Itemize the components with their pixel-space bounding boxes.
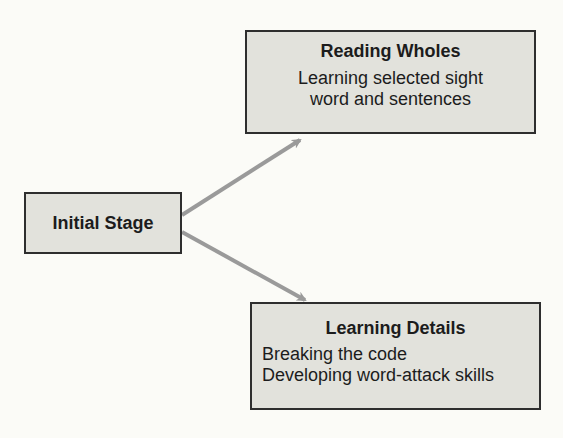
learning-details-box: Learning Details Breaking the code Devel… xyxy=(250,302,541,410)
reading-wholes-box: Reading Wholes Learning selected sight w… xyxy=(245,30,536,134)
reading-wholes-title: Reading Wholes xyxy=(247,41,534,62)
initial-stage-title: Initial Stage xyxy=(52,213,153,233)
reading-wholes-line-1: Learning selected sight xyxy=(247,68,534,89)
arrow-to-reading-wholes xyxy=(182,140,300,215)
learning-details-line-1: Breaking the code xyxy=(252,344,539,365)
reading-wholes-line-2: word and sentences xyxy=(247,89,534,110)
learning-details-title: Learning Details xyxy=(252,318,539,339)
arrow-to-learning-details xyxy=(182,232,305,300)
initial-stage-box: Initial Stage xyxy=(24,192,182,254)
learning-details-line-2: Developing word-attack skills xyxy=(252,365,539,386)
